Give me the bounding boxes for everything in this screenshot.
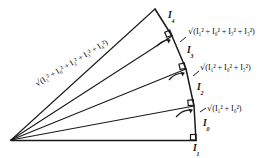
leader-hyp-2: [193, 71, 199, 76]
leg-label-I0: I0: [203, 119, 209, 129]
hypotenuse-1-line: [11, 106, 194, 140]
leg-label-I4: I4: [168, 11, 174, 21]
leg-label-I2: I2: [197, 83, 203, 93]
angle-arrow-v3: [181, 72, 185, 77]
leg-label-I3: I3: [187, 46, 193, 56]
angle-arrow-v2: [189, 109, 193, 114]
leader-hyp-1: [200, 108, 206, 112]
hypotenuse-label-3: √(I₁² + I₀² + I₂² + I₃²): [188, 27, 255, 36]
hypotenuse-label-1: √(I₁² + I₀²): [207, 104, 241, 113]
hypotenuse-4-line: [11, 9, 155, 140]
leader-hyp-3: [180, 37, 186, 42]
angle-arrow-v4: [167, 39, 171, 44]
right-angle-marker-v3: [179, 63, 186, 70]
right-angle-marker-v4: [165, 30, 172, 37]
hypotenuse-label-2: √(I₁² + I₀² + I₂²): [200, 63, 251, 72]
leg-label-I1: I1: [193, 144, 199, 154]
